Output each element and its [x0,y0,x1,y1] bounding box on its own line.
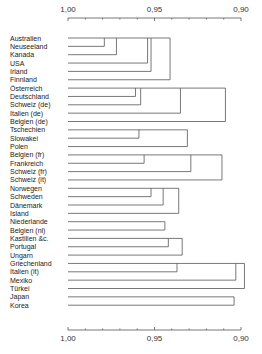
leaf-label: Mexiko [10,277,32,284]
axis-tick-label-top: 1,00 [60,5,76,14]
leaf-label: Türkei [10,285,30,292]
leaf-label: Norwegen [10,185,42,193]
axis-tick-label-bottom: 0,95 [147,334,163,343]
axis-tick-label-bottom: 1,00 [60,334,76,343]
leaf-label: Ungarn [10,252,33,260]
leaf-label: Belgien (fr) [10,151,44,159]
axis-tick-label-top: 0,90 [233,5,249,14]
leaf-label: Schweiz (fr) [10,168,47,176]
leaf-label: Kastilien &c. [10,235,49,242]
leaf-label: Korea [10,302,29,309]
leaf-label: Österreich [10,85,42,92]
leaf-label: USA [10,60,25,67]
axis-tick-label-bottom: 0,90 [233,334,249,343]
leaf-label: Belgien (nl) [10,227,45,235]
leaf-label: Dänemark [10,202,43,209]
leaf-label: Frankreich [10,160,43,167]
leaf-label: Italien (it) [10,268,39,276]
leaf-label: Irland [10,68,28,75]
leaf-label: Belgien (de) [10,118,48,126]
leaf-label: Australien [10,35,41,42]
leaf-label: Tschechien [10,126,45,133]
leaf-label: Schweiz (de) [10,101,50,109]
leaf-label: Japan [10,293,29,301]
leaf-label: Kanada [10,51,34,58]
dendrogram-chart: 1,000,950,901,000,950,90AustralienNeusee… [0,0,262,354]
leaf-label: Polen [10,143,28,150]
axis-tick-label-top: 0,95 [147,5,163,14]
leaf-label: Italien (de) [10,110,43,118]
leaf-label: Schweiz (it) [10,176,46,184]
leaf-label: Deutschland [10,93,49,100]
leaf-label: Slowakei [10,135,38,142]
leaf-label: Portugal [10,243,37,251]
leaf-label: Neuseeland [10,43,47,50]
leaf-label: Schweden [10,193,43,200]
leaf-label: Island [10,210,29,217]
leaf-label: Griechenland [10,260,52,267]
leaf-label: Finnland [10,76,37,83]
dendrogram-svg: 1,000,950,901,000,950,90AustralienNeusee… [0,0,262,354]
leaf-label: Niederlande [10,218,48,225]
